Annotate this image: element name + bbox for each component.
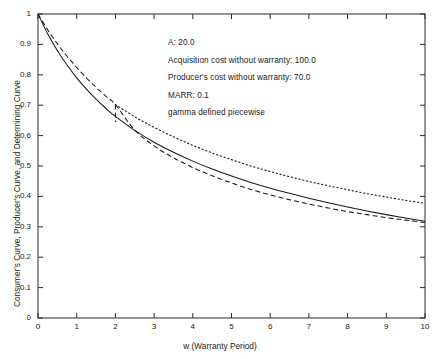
annotation-block: A: 20.0 Acquisition cost without warrant… (168, 38, 316, 126)
x-tick-label: 10 (413, 322, 437, 331)
x-tick-label: 8 (336, 322, 360, 331)
y-tick-label: 0 (0, 313, 31, 322)
x-tick-label: 5 (220, 322, 244, 331)
annotation-line-gamma: gamma defined piecewise (168, 108, 316, 117)
annotation-line-marr: MARR: 0.1 (168, 91, 316, 100)
y-tick-label: 0.7 (0, 100, 31, 109)
x-tick-label: 9 (374, 322, 398, 331)
y-tick-label: 0.8 (0, 70, 31, 79)
annotation-line-acquisition-cost: Acquisition cost without warranty: 100.0 (168, 56, 316, 65)
x-tick-label: 1 (65, 322, 89, 331)
annotation-line-a: A: 20.0 (168, 38, 316, 47)
x-tick-label: 6 (258, 322, 282, 331)
y-tick-label: 0.6 (0, 131, 31, 140)
x-axis-title: w (Warranty Period) (0, 341, 440, 351)
y-tick-label: 1 (0, 9, 31, 18)
x-tick-label: 3 (142, 322, 166, 331)
y-tick-label: 0.2 (0, 252, 31, 261)
annotation-line-producer-cost: Producer's cost without warranty: 70.0 (168, 73, 316, 82)
x-tick-label: 7 (297, 322, 321, 331)
y-tick-label: 0.3 (0, 222, 31, 231)
y-tick-label: 0.1 (0, 283, 31, 292)
y-tick-label: 0.5 (0, 161, 31, 170)
y-tick-label: 0.4 (0, 191, 31, 200)
y-tick-label: 0.9 (0, 39, 31, 48)
x-tick-label: 2 (103, 322, 127, 331)
x-tick-label: 4 (181, 322, 205, 331)
x-tick-label: 0 (26, 322, 50, 331)
